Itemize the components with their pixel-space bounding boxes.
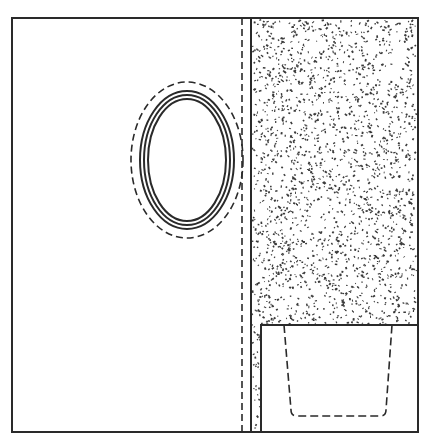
line-drawing bbox=[0, 0, 429, 442]
diagram-canvas bbox=[0, 0, 429, 442]
